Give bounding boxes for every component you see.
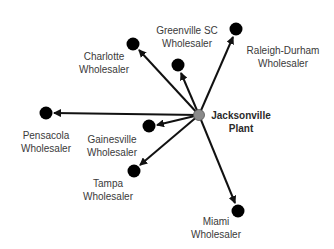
label-charlotte: CharlotteWholesaler	[76, 50, 132, 76]
node-gainesville	[143, 120, 156, 133]
node-tampa	[128, 165, 141, 178]
edge-greenville	[181, 73, 199, 115]
edge-pensacola	[54, 113, 199, 115]
node-pensacola	[40, 107, 53, 120]
edge-charlotte	[139, 50, 199, 115]
node-charlotte	[127, 38, 140, 51]
label-miami: MiamiWholesaler	[188, 215, 244, 241]
label-pensacola: PensacolaWholesaler	[18, 129, 74, 155]
label-plant: JacksonvillePlant	[208, 109, 274, 135]
label-greenville: Greenville SCWholesaler	[143, 24, 231, 50]
label-gainesville: GainesvilleWholesaler	[84, 133, 140, 159]
node-greenville	[172, 59, 185, 72]
label-tampa: TampaWholesaler	[80, 177, 136, 203]
node-plant	[194, 110, 205, 121]
label-raleigh: Raleigh-DurhamWholesaler	[246, 44, 320, 70]
node-raleigh	[230, 23, 243, 36]
